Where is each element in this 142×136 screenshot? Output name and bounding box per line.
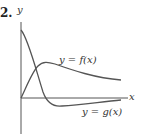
figure: 2. y x y = f(x) y = g(x) — [0, 0, 142, 136]
plot-area — [0, 0, 142, 136]
f-curve — [21, 62, 121, 98]
